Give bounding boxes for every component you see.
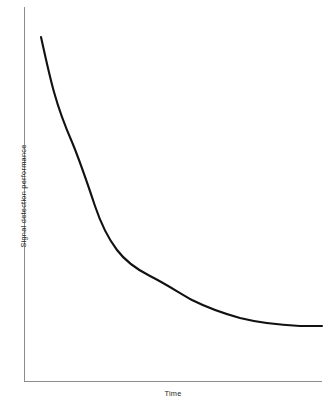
plot-area	[0, 0, 329, 407]
y-axis-label: Signal detection performance	[19, 96, 28, 296]
chart-background	[0, 0, 329, 407]
chart-figure: Signal detection performance Time	[0, 0, 329, 407]
x-axis-label: Time	[24, 389, 322, 398]
